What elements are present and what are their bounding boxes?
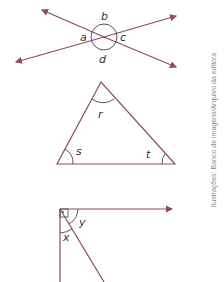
angle-arc-y	[69, 209, 78, 224]
angle-label-d: d	[99, 53, 107, 66]
line-2-left-ray	[16, 37, 104, 62]
angle-label-r: r	[98, 108, 104, 121]
angle-label-y: y	[78, 216, 86, 229]
angle-label-a: a	[80, 31, 87, 44]
angle-label-t: t	[146, 148, 151, 161]
angle-label-b: b	[101, 10, 108, 23]
line-2-right-ray	[104, 16, 176, 37]
right-angle-dot	[62, 211, 64, 213]
triangle-shape	[57, 82, 175, 164]
angle-arc-r	[92, 99, 114, 103]
intersecting-lines-figure: b a c d	[16, 10, 176, 67]
image-credit-text: Ilustrações: Banco de imagens/Arquivo da…	[210, 53, 217, 207]
triangle-figure: r s t	[57, 82, 175, 164]
line-1-right-ray	[104, 37, 176, 67]
angle-arc-s	[65, 149, 73, 164]
image-credit: Ilustrações: Banco de imagens/Arquivo da…	[206, 20, 220, 240]
angle-arc-t	[162, 154, 165, 164]
angle-label-s: s	[76, 145, 82, 158]
angle-label-c: c	[120, 31, 126, 44]
right-angle-figure: x y	[60, 209, 172, 282]
geometry-figures: b a c d r s t x y	[0, 0, 224, 282]
angle-label-x: x	[62, 231, 70, 244]
line-1-left-ray	[42, 10, 104, 37]
